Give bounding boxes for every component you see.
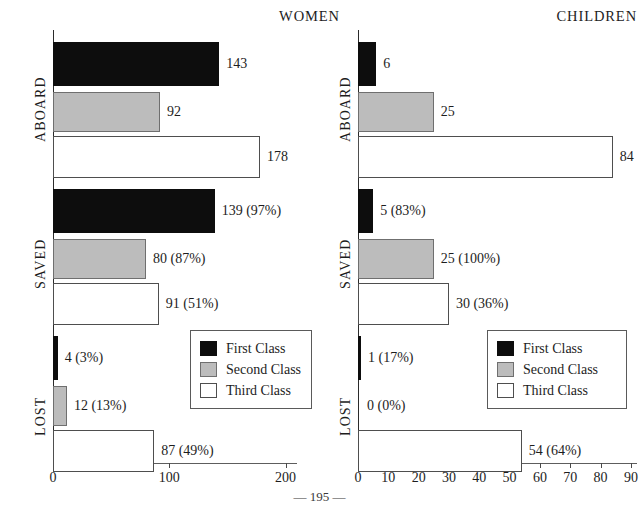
bar-women-saved-second [53,239,146,279]
x-tick-label-children-80: 80 [594,470,608,486]
bar-value-children-lost-first: 1 (17%) [368,350,414,366]
bar-children-saved-first [358,189,373,233]
bar-value-women-saved-first: 139 (97%) [222,203,282,219]
bar-women-saved-first [53,189,215,233]
x-tick-label-women-100: 100 [159,470,180,486]
legend-swatch-second-icon [497,362,514,377]
x-tick-label-children-20: 20 [412,470,426,486]
legend-label-second: Second Class [523,362,598,378]
bar-women-lost-first [53,336,58,380]
page-footer: — 195 — [0,489,639,505]
bar-value-women-saved-third: 91 (51%) [166,296,219,312]
legend-label-third: Third Class [226,383,291,399]
bar-value-children-lost-second: 0 (0%) [367,398,406,414]
legend-label-first: First Class [226,341,286,357]
x-tick-children-70 [570,463,571,468]
group-label-women-aboard: ABOARD [33,76,49,142]
legend-row-children-first: First Class [497,338,617,359]
bar-value-women-lost-third: 87 (49%) [161,443,214,459]
bar-children-lost-first [358,336,361,380]
x-tick-label-children-60: 60 [533,470,547,486]
bar-value-children-aboard-second: 25 [441,104,455,120]
bar-value-children-lost-third: 54 (64%) [529,443,582,459]
bar-women-aboard-second [53,92,160,132]
bar-children-lost-third [358,430,522,472]
titanic-survival-figure: WOMEN CHILDREN 0100200ABOARD14392178SAVE… [0,0,639,524]
bar-women-lost-second [53,386,67,426]
x-tick-label-children-50: 50 [503,470,517,486]
legend-label-second: Second Class [226,362,301,378]
x-tick-label-children-40: 40 [472,470,486,486]
legend-row-children-second: Second Class [497,359,617,380]
x-tick-women-200 [286,463,287,468]
bar-children-saved-third [358,283,449,325]
legend-swatch-third-icon [200,383,217,398]
bar-value-women-aboard-third: 178 [267,149,288,165]
x-tick-label-women-0: 0 [50,470,57,486]
legend-row-women-second: Second Class [200,359,302,380]
legend-swatch-first-icon [497,341,514,356]
bar-value-women-lost-second: 12 (13%) [74,398,127,414]
bar-children-aboard-second [358,92,434,132]
x-tick-children-90 [631,463,632,468]
legend-women: First ClassSecond ClassThird Class [190,330,312,409]
legend-row-women-third: Third Class [200,380,302,401]
x-tick-label-women-200: 200 [275,470,296,486]
bar-value-children-saved-third: 30 (36%) [456,296,509,312]
group-label-women-saved: SAVED [33,239,49,289]
bar-value-children-saved-second: 25 (100%) [441,251,501,267]
legend-children: First ClassSecond ClassThird Class [487,330,627,409]
legend-row-children-third: Third Class [497,380,617,401]
x-tick-children-80 [601,463,602,468]
bar-women-aboard-third [53,136,260,178]
group-label-children-lost: LOST [338,397,354,436]
bar-value-women-aboard-second: 92 [167,104,181,120]
bar-children-saved-second [358,239,434,279]
bar-value-children-aboard-first: 6 [383,56,390,72]
panel-title-children: CHILDREN [557,8,638,25]
x-tick-women-100 [169,463,170,468]
bar-children-aboard-first [358,42,376,86]
group-label-children-aboard: ABOARD [338,76,354,142]
legend-label-third: Third Class [523,383,588,399]
x-tick-children-60 [540,463,541,468]
x-tick-label-children-30: 30 [442,470,456,486]
x-tick-label-children-0: 0 [355,470,362,486]
bar-value-children-aboard-third: 84 [620,149,634,165]
bar-women-saved-third [53,283,159,325]
bar-children-aboard-third [358,136,613,178]
bar-women-aboard-first [53,42,219,86]
x-tick-label-children-70: 70 [563,470,577,486]
bar-value-women-aboard-first: 143 [226,56,247,72]
bar-value-women-lost-first: 4 (3%) [65,350,104,366]
legend-swatch-first-icon [200,341,217,356]
x-tick-label-children-90: 90 [624,470,638,486]
legend-label-first: First Class [523,341,583,357]
legend-swatch-third-icon [497,383,514,398]
legend-swatch-second-icon [200,362,217,377]
group-label-women-lost: LOST [33,397,49,436]
bar-women-lost-third [53,430,154,472]
bar-value-women-saved-second: 80 (87%) [153,251,206,267]
legend-row-women-first: First Class [200,338,302,359]
group-label-children-saved: SAVED [338,239,354,289]
bar-value-children-saved-first: 5 (83%) [380,203,426,219]
x-tick-label-children-10: 10 [381,470,395,486]
